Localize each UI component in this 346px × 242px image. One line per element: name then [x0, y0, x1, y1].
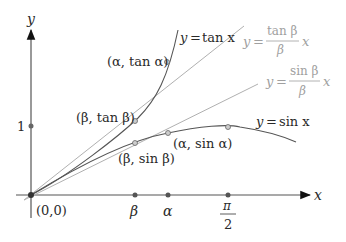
svg-text:tan β: tan β — [267, 24, 298, 38]
label-alpha-tan: (α, tan α) — [107, 54, 168, 69]
svg-text:x: x — [323, 74, 331, 89]
svg-text:y: y — [255, 114, 264, 129]
svg-text:y: y — [265, 74, 274, 89]
tan-curve-label: y = tan x — [179, 30, 235, 45]
point-origin — [28, 192, 34, 198]
svg-text:x: x — [302, 34, 310, 49]
y-axis-label: y — [26, 11, 36, 27]
svg-text:β: β — [276, 43, 284, 57]
svg-text:sin x: sin x — [279, 114, 310, 129]
point-beta-sin — [133, 141, 138, 146]
svg-text:=: = — [266, 114, 277, 129]
svg-text:sin β: sin β — [290, 64, 319, 78]
point-pi2-sin — [226, 125, 231, 130]
point-beta-axis — [133, 193, 138, 198]
x-tick-pi-den: 2 — [224, 217, 232, 232]
label-beta-tan: (β, tan β) — [76, 110, 135, 125]
label-beta-sin: (β, sin β) — [118, 151, 175, 166]
svg-text:tan x: tan x — [202, 30, 235, 45]
point-alpha-sin — [166, 131, 171, 136]
svg-text:β: β — [298, 84, 306, 98]
point-alpha-axis — [166, 193, 171, 198]
x-axis-label: x — [314, 187, 322, 203]
svg-text:=: = — [276, 74, 287, 89]
y-tick-1: 1 — [17, 119, 25, 134]
origin-label: (0,0) — [36, 203, 67, 218]
svg-text:=: = — [190, 30, 201, 45]
diagram-canvas: y x (0,0) 1 β α π 2 y = tan x y = sin x … — [0, 0, 346, 242]
x-tick-beta: β — [129, 203, 138, 219]
sin-secant-label: y = sin β β x — [265, 64, 331, 98]
svg-text:y: y — [242, 34, 251, 49]
label-alpha-sin: (α, sin α) — [173, 136, 232, 151]
point-pi2-axis — [226, 193, 231, 198]
tan-secant-label: y = tan β β x — [242, 24, 310, 57]
x-tick-alpha: α — [163, 203, 173, 219]
x-tick-pi-num: π — [222, 199, 232, 213]
svg-text:y: y — [179, 30, 188, 45]
svg-text:=: = — [253, 34, 264, 49]
sin-curve-label: y = sin x — [255, 114, 310, 129]
point-y1 — [29, 124, 34, 129]
